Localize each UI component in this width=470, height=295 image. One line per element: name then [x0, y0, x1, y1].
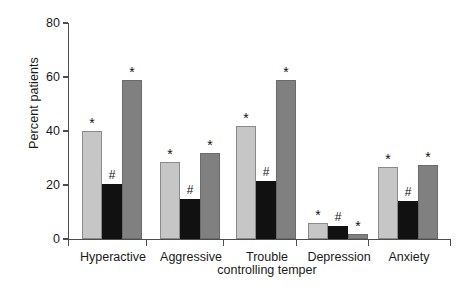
y-tick-label: 0: [53, 232, 60, 246]
x-tick-mark: [68, 240, 69, 246]
x-tick-mark: [146, 240, 147, 246]
significance-marker-hash: #: [180, 184, 200, 196]
x-axis-line: [68, 239, 451, 240]
bar: [160, 162, 180, 239]
bar-group: *#*: [236, 23, 298, 239]
bar: [308, 223, 328, 239]
x-tick-mark: [223, 240, 224, 246]
y-tick-mark: [63, 184, 68, 185]
bar: [236, 126, 256, 239]
y-tick-label: 40: [46, 124, 60, 138]
bar-group: *#*: [82, 23, 144, 239]
y-axis-label: Percent patients: [27, 33, 41, 173]
significance-marker-star: *: [418, 150, 438, 164]
bar: [398, 201, 418, 239]
significance-marker-star: *: [82, 116, 102, 130]
x-tick-mark: [296, 240, 297, 246]
bar-group: *#*: [378, 23, 440, 239]
plot-area: 020406080 *#**#**#**#**#* HyperactiveAgg…: [68, 23, 451, 239]
x-tick-mark: [368, 240, 369, 246]
bar: [276, 80, 296, 239]
bar-group: *#*: [308, 23, 370, 239]
significance-marker-star: *: [236, 111, 256, 125]
significance-marker-hash: #: [102, 169, 122, 181]
bar: [328, 226, 348, 240]
bar: [102, 184, 122, 239]
bar: [418, 165, 438, 239]
bar: [256, 181, 276, 239]
y-axis-line: [68, 23, 69, 239]
bar-group: *#*: [160, 23, 222, 239]
y-tick-label: 20: [46, 178, 60, 192]
significance-marker-hash: #: [398, 186, 418, 198]
significance-marker-hash: #: [256, 166, 276, 178]
y-tick-label: 60: [46, 70, 60, 84]
significance-marker-star: *: [160, 147, 180, 161]
bar: [200, 153, 220, 239]
x-tick-mark: [450, 240, 451, 246]
bar: [82, 131, 102, 239]
y-tick-mark: [63, 22, 68, 23]
bar: [180, 199, 200, 240]
significance-marker-star: *: [200, 138, 220, 152]
significance-marker-star: *: [378, 152, 398, 166]
y-tick-mark: [63, 130, 68, 131]
category-label: Anxiety: [354, 251, 464, 264]
bar: [378, 167, 398, 239]
y-tick-mark: [63, 76, 68, 77]
significance-marker-star: *: [276, 65, 296, 79]
bar: [348, 234, 368, 239]
bar: [122, 80, 142, 239]
significance-marker-star: *: [348, 219, 368, 233]
significance-marker-star: *: [122, 65, 142, 79]
bar-chart: Percent patients 020406080 *#**#**#**#**…: [0, 0, 470, 295]
y-tick-label: 80: [46, 16, 60, 30]
significance-marker-star: *: [308, 208, 328, 222]
significance-marker-hash: #: [328, 211, 348, 223]
